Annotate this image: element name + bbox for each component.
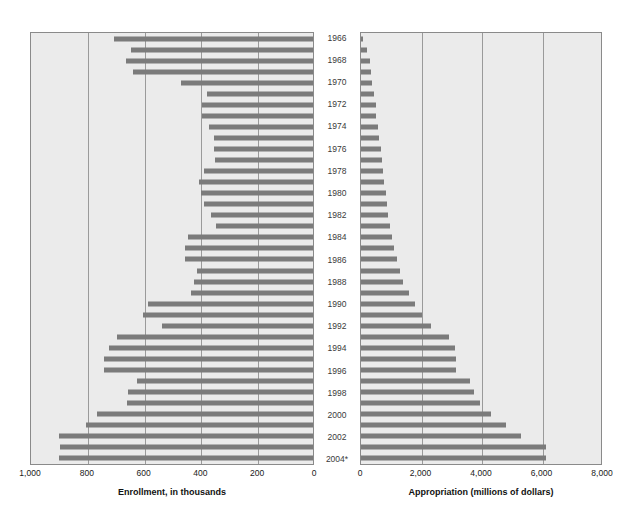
x-tick-label: 600 bbox=[137, 468, 151, 478]
bar bbox=[361, 80, 372, 85]
bar bbox=[148, 301, 313, 306]
year-axis-label: 1968 bbox=[314, 56, 360, 64]
bar bbox=[361, 423, 506, 428]
chart-row bbox=[31, 375, 313, 386]
chart-row bbox=[31, 287, 313, 298]
bar bbox=[361, 434, 521, 439]
bar bbox=[216, 224, 313, 229]
bar bbox=[361, 334, 449, 339]
chart-row bbox=[361, 353, 601, 364]
chart-row bbox=[361, 398, 601, 409]
chart-row bbox=[31, 121, 313, 132]
bar bbox=[185, 257, 313, 262]
chart-row bbox=[31, 243, 313, 254]
chart-row bbox=[361, 364, 601, 375]
chart-row bbox=[361, 420, 601, 431]
bar bbox=[126, 58, 313, 63]
bar bbox=[361, 378, 470, 383]
chart-row bbox=[361, 44, 601, 55]
chart-row bbox=[31, 420, 313, 431]
appropriation-x-tick-labels: 02,0004,0006,0008,000 bbox=[360, 468, 602, 482]
year-axis-label: 1986 bbox=[314, 256, 360, 264]
bar bbox=[194, 279, 313, 284]
x-tick-label: 1,000 bbox=[19, 468, 40, 478]
chart-row bbox=[361, 210, 601, 221]
bar bbox=[361, 58, 370, 63]
chart-row bbox=[31, 177, 313, 188]
chart-row bbox=[31, 265, 313, 276]
chart-row bbox=[31, 298, 313, 309]
bar bbox=[361, 202, 387, 207]
chart-row bbox=[31, 453, 313, 464]
enrollment-x-tick-labels: 1,0008006004002000 bbox=[30, 468, 314, 482]
appropriation-bar-rows bbox=[361, 33, 601, 464]
chart-row bbox=[31, 66, 313, 77]
chart-row bbox=[31, 77, 313, 88]
x-tick-label: 200 bbox=[250, 468, 264, 478]
chart-row bbox=[361, 243, 601, 254]
year-axis-label: 1974 bbox=[314, 122, 360, 130]
bar bbox=[199, 180, 313, 185]
bar bbox=[361, 367, 456, 372]
chart-row bbox=[361, 442, 601, 453]
chart-row bbox=[31, 409, 313, 420]
bar bbox=[207, 91, 314, 96]
bar bbox=[361, 390, 474, 395]
bar bbox=[361, 456, 546, 461]
chart-row bbox=[31, 88, 313, 99]
year-axis-label: 1988 bbox=[314, 278, 360, 286]
bar bbox=[211, 213, 313, 218]
bar bbox=[191, 290, 313, 295]
chart-row bbox=[361, 88, 601, 99]
year-axis-label: 2000 bbox=[314, 411, 360, 419]
bar bbox=[104, 356, 313, 361]
chart-row bbox=[31, 143, 313, 154]
bar bbox=[197, 268, 313, 273]
bar bbox=[361, 268, 400, 273]
bar bbox=[137, 378, 313, 383]
chart-row bbox=[31, 44, 313, 55]
chart-row bbox=[31, 210, 313, 221]
bar bbox=[214, 146, 313, 151]
year-axis-label: 2002 bbox=[314, 433, 360, 441]
chart-row bbox=[31, 132, 313, 143]
bar bbox=[361, 412, 491, 417]
chart-row bbox=[361, 33, 601, 44]
bar bbox=[361, 180, 384, 185]
bar bbox=[86, 423, 313, 428]
year-axis-label: 1998 bbox=[314, 389, 360, 397]
enrollment-chart-panel bbox=[30, 32, 314, 465]
chart-row bbox=[361, 188, 601, 199]
bar bbox=[361, 301, 415, 306]
chart-row bbox=[361, 99, 601, 110]
chart-row bbox=[31, 188, 313, 199]
bar bbox=[143, 312, 313, 317]
bar bbox=[361, 323, 431, 328]
x-tick-label: 4,000 bbox=[470, 468, 491, 478]
year-axis-label: 1980 bbox=[314, 189, 360, 197]
chart-row bbox=[361, 387, 601, 398]
chart-row bbox=[31, 309, 313, 320]
chart-row bbox=[361, 166, 601, 177]
chart-row bbox=[31, 320, 313, 331]
year-axis-label: 1978 bbox=[314, 167, 360, 175]
paired-bar-chart-figure: 1966196819701972197419761978198019821984… bbox=[0, 0, 634, 525]
chart-row bbox=[361, 375, 601, 386]
chart-row bbox=[31, 276, 313, 287]
chart-row bbox=[361, 66, 601, 77]
chart-row bbox=[361, 77, 601, 88]
x-tick-label: 8,000 bbox=[591, 468, 612, 478]
bar bbox=[59, 434, 313, 439]
x-tick-label: 400 bbox=[193, 468, 207, 478]
year-axis-label: 1970 bbox=[314, 78, 360, 86]
bar bbox=[361, 69, 371, 74]
chart-row bbox=[31, 387, 313, 398]
year-axis-label: 1984 bbox=[314, 233, 360, 241]
bar bbox=[59, 456, 313, 461]
chart-row bbox=[31, 353, 313, 364]
bar bbox=[361, 345, 455, 350]
year-axis-label: 2004* bbox=[314, 455, 360, 463]
chart-row bbox=[31, 431, 313, 442]
bar bbox=[361, 135, 379, 140]
bar bbox=[181, 80, 313, 85]
